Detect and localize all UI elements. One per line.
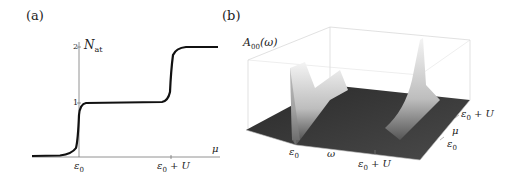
chart-b-ytick-eps0-plus-u: ε0 + U [461,108,494,122]
chart-b-xtick-eps0: ε0 [289,146,299,160]
chart-b-ytick-eps0: ε0 [447,138,457,152]
chart-b-xlabel: ω [327,148,335,159]
chart-b-zlabel: A00(ω) [243,36,277,51]
chart-b-xtick-eps0-plus-u: ε0 + U [358,158,391,172]
chart-b-ylabel: μ [452,125,459,136]
chart-b-surface [0,0,518,184]
